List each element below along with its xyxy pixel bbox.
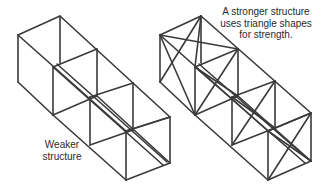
weaker-structure-label: Weaker structure bbox=[32, 139, 92, 162]
stronger-structure-label: A stronger structure uses triangle shape… bbox=[207, 6, 325, 41]
weaker-label-line-2: structure bbox=[32, 151, 92, 163]
stronger-label-line-3: for strength. bbox=[207, 29, 325, 41]
weaker-label-line-1: Weaker bbox=[32, 139, 92, 151]
stronger-label-line-2: uses triangle shapes bbox=[207, 18, 325, 30]
stronger-structure bbox=[160, 16, 311, 180]
stronger-label-line-1: A stronger structure bbox=[207, 6, 325, 18]
